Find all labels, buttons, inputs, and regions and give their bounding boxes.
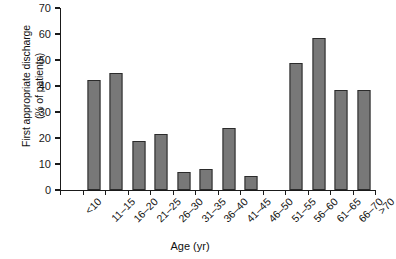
bar (200, 169, 213, 190)
x-axis-category-label: 46–50 (267, 196, 295, 224)
plot-area (60, 8, 375, 190)
bar (87, 80, 100, 191)
x-axis-tick (218, 190, 219, 195)
bar-slot (240, 8, 263, 190)
x-axis-tick (83, 190, 84, 195)
x-axis-category-label: 61–65 (334, 196, 362, 224)
y-axis-tick-label: 60 (29, 28, 51, 40)
x-axis-category-label: 56–60 (312, 196, 340, 224)
y-axis-tick-label: 70 (29, 2, 51, 14)
y-axis-tick-label: 20 (29, 132, 51, 144)
bar (245, 176, 258, 190)
y-axis-tick-label: 40 (29, 80, 51, 92)
x-axis-category-label: 11–15 (109, 196, 137, 224)
bar-slot (353, 8, 376, 190)
bar-slot (150, 8, 173, 190)
bar (335, 90, 348, 190)
x-axis-category-label: 36–40 (222, 196, 250, 224)
x-axis-tick (173, 190, 174, 195)
bar-slot (218, 8, 241, 190)
bar-slot (105, 8, 128, 190)
y-axis-tick-label: 30 (29, 106, 51, 118)
bar (155, 134, 168, 190)
bar-slot (60, 8, 83, 190)
bar-slot (173, 8, 196, 190)
bar (222, 128, 235, 190)
x-axis-tick (308, 190, 309, 195)
y-axis-tick-label: 0 (29, 184, 51, 196)
y-axis-tick-label: 50 (29, 54, 51, 66)
x-axis-category-label: 41–45 (244, 196, 272, 224)
x-axis-category-labels: <1011–1516–2021–2526–3031–3536–4041–4546… (60, 196, 375, 240)
x-axis-tick (105, 190, 106, 195)
x-axis-category-label: 16–20 (132, 196, 160, 224)
bar-slot (195, 8, 218, 190)
x-axis-category-label: 21–25 (154, 196, 182, 224)
bar-slot (330, 8, 353, 190)
x-axis-category-label: 26–30 (177, 196, 205, 224)
bar-slot (83, 8, 106, 190)
x-axis-title: Age (yr) (0, 240, 380, 252)
y-axis-tick-label: 10 (29, 158, 51, 170)
bar-slot (263, 8, 286, 190)
x-axis-tick (263, 190, 264, 195)
bar-series (60, 8, 375, 190)
bar (132, 141, 145, 190)
bar (290, 63, 303, 190)
x-axis-category-label: 51–55 (289, 196, 317, 224)
bar (110, 73, 123, 190)
x-axis-category-label: <10 (83, 196, 103, 216)
bar (312, 38, 325, 190)
x-axis-tick (353, 190, 354, 195)
x-axis-tick (128, 190, 129, 195)
bar (177, 172, 190, 190)
bar-slot (308, 8, 331, 190)
x-axis-category-label: 31–35 (199, 196, 227, 224)
bar-slot (128, 8, 151, 190)
x-axis-tick (60, 190, 61, 195)
bar-slot (285, 8, 308, 190)
bar (357, 90, 370, 190)
